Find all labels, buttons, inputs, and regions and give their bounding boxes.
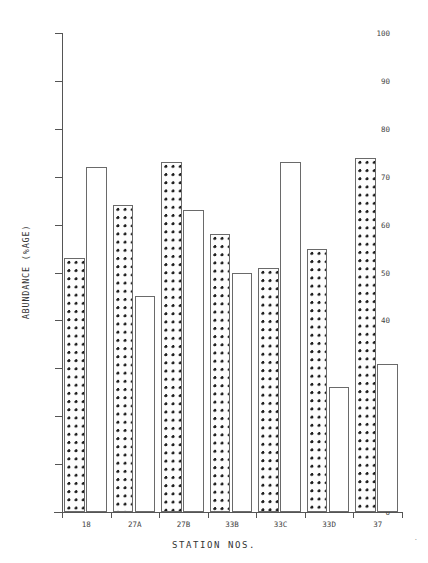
y-tick <box>55 320 62 321</box>
corner-mark: . <box>414 534 418 542</box>
x-tick-label: 33B <box>209 520 255 529</box>
y-axis-line <box>62 33 63 512</box>
chart-figure: ABUNDANCE (%AGE) 0102030405060708090100 … <box>0 0 428 563</box>
x-tick-label: 27B <box>160 520 206 529</box>
y-tick-label: 90 <box>364 77 390 86</box>
bar <box>329 387 350 512</box>
y-tick <box>55 81 62 82</box>
bar <box>280 162 301 512</box>
bar <box>113 205 134 512</box>
y-tick <box>55 368 62 369</box>
x-tick-label: 18 <box>63 520 109 529</box>
x-axis-line <box>54 512 402 513</box>
y-tick-label: 100 <box>364 29 390 38</box>
bar <box>86 167 107 512</box>
x-tick <box>208 512 209 518</box>
x-tick <box>62 512 63 518</box>
x-axis-title: STATION NOS. <box>0 540 428 550</box>
y-tick <box>55 129 62 130</box>
bar <box>307 249 328 512</box>
x-tick <box>305 512 306 518</box>
y-tick-label: 80 <box>364 125 390 134</box>
bar <box>183 210 204 512</box>
bar <box>135 296 156 512</box>
x-tick-label: 33D <box>306 520 352 529</box>
bar <box>232 273 253 513</box>
bar <box>210 234 231 512</box>
bar <box>377 364 398 512</box>
x-tick <box>256 512 257 518</box>
y-tick <box>55 416 62 417</box>
x-tick <box>111 512 112 518</box>
y-axis-title: ABUNDANCE (%AGE) <box>21 202 31 342</box>
x-tick <box>159 512 160 518</box>
bar <box>258 268 279 512</box>
x-tick-label: 27A <box>112 520 158 529</box>
y-tick <box>55 512 62 513</box>
plot-area: 0102030405060708090100 1827A27B33B33C33D… <box>62 33 402 512</box>
x-tick <box>402 512 403 518</box>
bar <box>355 158 376 512</box>
y-tick <box>55 225 62 226</box>
x-tick <box>353 512 354 518</box>
y-tick <box>55 273 62 274</box>
bar <box>64 258 85 512</box>
y-tick <box>55 464 62 465</box>
x-tick-label: 37 <box>355 520 401 529</box>
x-tick-label: 33C <box>258 520 304 529</box>
y-tick <box>55 177 62 178</box>
bar <box>161 162 182 512</box>
y-tick <box>55 33 62 34</box>
